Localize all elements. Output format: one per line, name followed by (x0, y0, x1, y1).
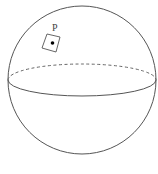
sphere-diagram: P (0, 0, 158, 174)
sphere-outline (8, 6, 156, 154)
equator-back-dashed (8, 64, 156, 80)
equator-front (8, 80, 156, 96)
point-p-label: P (52, 22, 58, 33)
point-p-dot (51, 41, 55, 45)
